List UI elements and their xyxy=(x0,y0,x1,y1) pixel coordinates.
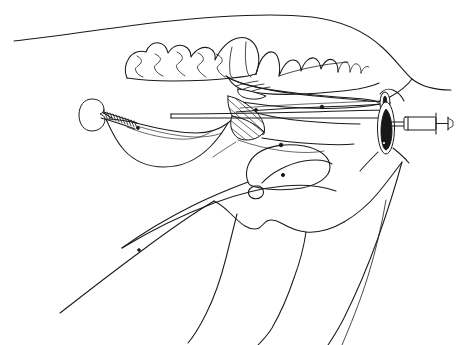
marker-dot-pharynx xyxy=(279,143,283,147)
lower-teeth-arcade xyxy=(256,52,369,76)
masseter-contour xyxy=(122,185,336,248)
pharynx-lines-group xyxy=(213,138,354,157)
inflation-balloon xyxy=(79,99,105,131)
pharynx-upper-line xyxy=(262,138,354,145)
larynx-group xyxy=(122,145,332,248)
marker-dot-tongue xyxy=(137,127,140,130)
ventral-neck-right xyxy=(258,232,306,345)
equine-head-diagram xyxy=(0,0,457,345)
marker-dot-palate xyxy=(255,109,258,112)
head-outline-group xyxy=(14,15,451,102)
nasal-passage-marker xyxy=(320,105,324,109)
larynx-cartilage-dot xyxy=(281,173,284,176)
syringe-plunger-cap xyxy=(448,118,453,129)
upper-tooth-divider-7 xyxy=(245,42,251,77)
upper-tooth-divider-2 xyxy=(154,54,163,76)
hyoid-nodule xyxy=(248,186,263,199)
upper-tooth-divider-6 xyxy=(230,47,233,78)
upper-tooth-divider-1 xyxy=(135,56,143,77)
outer-contours-group xyxy=(60,162,402,345)
nostril-highlight xyxy=(383,142,385,144)
dorsal-head-profile xyxy=(14,15,451,90)
caudal-teeth-small-2 xyxy=(350,64,361,73)
palate-sliver-shape xyxy=(238,89,266,99)
upper-tooth-divider-5 xyxy=(216,54,225,77)
upper-teeth-arcade xyxy=(125,38,259,81)
ventral-neck-left xyxy=(188,214,237,343)
tongue-group xyxy=(106,114,236,167)
caudal-teeth-crowns xyxy=(256,52,338,76)
neck-crease-right xyxy=(342,200,386,345)
palate-ridge-2 xyxy=(241,84,264,90)
larynx-inner-fold xyxy=(262,160,332,183)
caudal-teeth-small-3 xyxy=(361,66,369,73)
nostril-cheek-line xyxy=(360,152,378,171)
nostril-lower-attach xyxy=(393,148,409,163)
syringe-group[interactable] xyxy=(392,113,453,134)
pharynx-tail-line xyxy=(213,142,236,157)
caudal-teeth-small-1 xyxy=(338,62,350,72)
tongue-ventral xyxy=(106,119,228,167)
upper-teeth-crowns xyxy=(125,38,259,78)
upper-tooth-divider-3 xyxy=(176,52,185,76)
upper-teeth-gumline xyxy=(127,74,256,81)
upper-tooth-divider-4 xyxy=(197,53,206,77)
tube-upper-wall xyxy=(171,110,388,114)
nasogastric-tube-group xyxy=(171,101,390,118)
neck-right-contour xyxy=(328,162,402,345)
cheek-jaw-contour xyxy=(60,201,214,313)
marker-dot-jaw xyxy=(138,249,141,252)
syringe-barrel[interactable] xyxy=(404,117,436,130)
illustration-canvas: Nasogastric intubation in the horse xyxy=(0,0,457,345)
